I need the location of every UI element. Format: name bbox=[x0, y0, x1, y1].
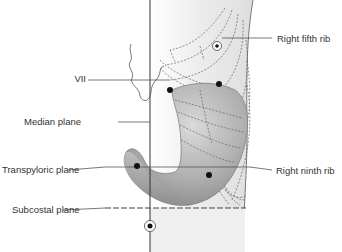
label-transpyloric-plane: Transpyloric plane bbox=[2, 164, 79, 175]
label-median-plane: Median plane bbox=[24, 116, 81, 127]
label-vii: VII bbox=[38, 73, 86, 84]
label-right-ninth-rib: Right ninth rib bbox=[276, 165, 335, 176]
label-subcostal-plane: Subcostal plane bbox=[12, 204, 80, 215]
label-right-fifth-rib: Right fifth rib bbox=[277, 33, 330, 44]
